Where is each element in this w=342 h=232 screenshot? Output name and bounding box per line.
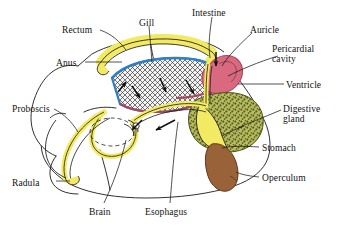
label-anus: Anus [56, 58, 76, 68]
label-operculum: Operculum [262, 173, 306, 183]
anatomy-figure: Rectum Gill Intestine Auricle Pericardia… [0, 0, 342, 232]
label-ventricle: Ventricle [286, 80, 321, 90]
label-esophagus: Esophagus [145, 207, 187, 217]
label-stomach: Stomach [262, 143, 296, 153]
label-brain: Brain [89, 207, 111, 217]
label-pericardial-cavity: Pericardial cavity [272, 44, 314, 64]
label-digestive-gland: Digestive gland [283, 104, 320, 124]
label-gill: Gill [139, 18, 154, 28]
label-intestine: Intestine [192, 8, 226, 18]
label-rectum: Rectum [62, 25, 92, 35]
label-radula: Radula [12, 178, 40, 188]
label-auricle: Auricle [250, 25, 279, 35]
label-proboscis: Proboscis [12, 104, 50, 114]
